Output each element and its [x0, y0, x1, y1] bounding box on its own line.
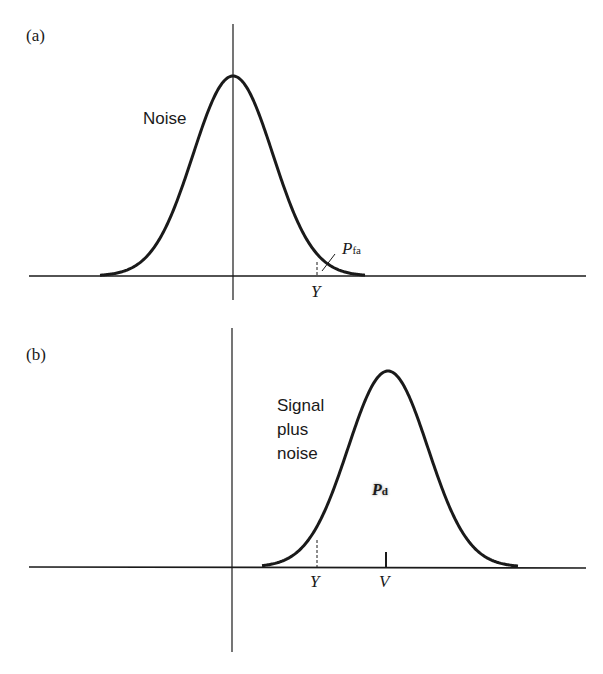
signal-plus-noise-label: Signal plus noise — [277, 394, 324, 466]
diagram-canvas — [0, 0, 603, 674]
pd-label-sub: d — [382, 485, 388, 497]
panel-b-plot — [29, 328, 586, 652]
noise-label: Noise — [143, 110, 186, 127]
panel-a-threshold-label: Y — [311, 283, 320, 300]
pfa-label: Pfa — [342, 240, 361, 257]
panel-b-label: (b) — [26, 346, 46, 363]
signal-plus-noise-line-2: plus — [277, 418, 324, 442]
panel-b-x-axis — [29, 567, 586, 568]
panel-a-plot — [29, 24, 586, 300]
pd-label-main: P — [372, 481, 382, 498]
pfa-label-sub: fa — [352, 244, 361, 256]
panel-b-mean-label: V — [379, 573, 389, 590]
signal-plus-noise-line-1: Signal — [277, 394, 324, 418]
signal-plus-noise-line-3: noise — [277, 442, 324, 466]
panel-a-label: (a) — [26, 27, 45, 44]
panel-b-threshold-label: Y — [310, 573, 319, 590]
pfa-label-main: P — [342, 239, 352, 258]
pd-label: Pd — [372, 482, 388, 498]
